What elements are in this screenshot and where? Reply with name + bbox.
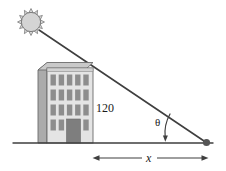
building-door bbox=[67, 119, 81, 143]
building-icon bbox=[38, 63, 93, 144]
building-side-wall bbox=[38, 63, 47, 143]
diagram-svg: 120 θ x bbox=[0, 0, 226, 171]
figure-container: 120 θ x bbox=[0, 0, 226, 171]
building-cornice bbox=[47, 68, 93, 71]
shadow-tip-dot bbox=[203, 139, 210, 146]
angle-label: θ bbox=[155, 116, 160, 128]
base-label: x bbox=[145, 151, 152, 165]
height-label: 120 bbox=[96, 101, 114, 115]
